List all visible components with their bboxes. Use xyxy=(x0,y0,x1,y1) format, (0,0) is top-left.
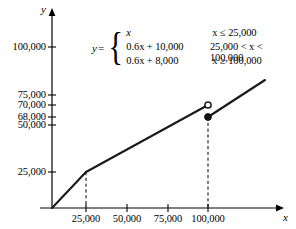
equation-expression: 0.6x + 10,000 xyxy=(126,41,210,52)
y-tick-label-70000: 70,000 xyxy=(0,100,46,111)
y-axis-label: y xyxy=(41,4,46,15)
segment-branch-1 xyxy=(52,172,86,208)
y-tick-label-100000: 100,000 xyxy=(0,42,46,53)
equation-expression: x xyxy=(126,27,212,38)
equation-row: 0.6x + 8,000 x ≥ 100,000 xyxy=(126,55,296,68)
x-tick-label-100000: 100,000 xyxy=(176,214,240,225)
segment-branch-3 xyxy=(208,80,265,117)
equation-brace: { xyxy=(109,35,123,60)
y-tick-label-50000: 50,000 xyxy=(0,120,46,131)
y-axis xyxy=(49,8,56,208)
equation-condition: x ≤ 25,000 xyxy=(212,27,256,38)
piecewise-function-figure: y x 100,000 75,000 70,000 68,000 50,000 … xyxy=(0,0,296,229)
closed-endpoint-marker xyxy=(205,114,212,121)
equation-row: x x ≤ 25,000 xyxy=(126,27,296,40)
y-tick-label-25000: 25,000 xyxy=(0,167,46,178)
equation-row: 0.6x + 10,000 25,000 < x < 100,000 xyxy=(126,41,296,54)
equation-rows: x x ≤ 25,000 0.6x + 10,000 25,000 < x < … xyxy=(126,27,296,68)
piecewise-equation: y = { x x ≤ 25,000 0.6x + 10,000 25,000 … xyxy=(92,27,296,68)
equation-equals-sign: = xyxy=(98,42,106,54)
x-axis xyxy=(40,205,284,212)
x-axis-label: x xyxy=(283,212,288,223)
open-endpoint-marker xyxy=(205,102,211,108)
piecewise-curve xyxy=(52,80,265,208)
equation-condition: x ≥ 100,000 xyxy=(212,55,261,66)
segment-branch-2 xyxy=(86,105,208,172)
equation-expression: 0.6x + 8,000 xyxy=(126,55,212,66)
